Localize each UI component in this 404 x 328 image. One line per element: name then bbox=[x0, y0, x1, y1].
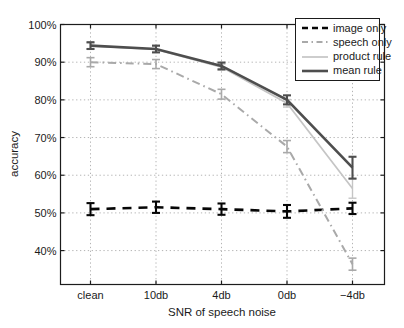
legend-label: mean rule bbox=[333, 65, 382, 76]
legend-item-mean-rule: mean rule bbox=[301, 64, 379, 78]
y-tick-label: 50% bbox=[17, 207, 57, 219]
legend-label: speech only bbox=[333, 37, 392, 48]
y-tick-label: 90% bbox=[17, 56, 57, 68]
x-tick-label: 4db bbox=[212, 289, 230, 301]
y-tick-label: 60% bbox=[17, 169, 57, 181]
x-tick-label: 0db bbox=[278, 289, 296, 301]
x-tick-label: −4db bbox=[340, 289, 365, 301]
legend-label: product rule bbox=[333, 51, 391, 62]
legend-line-sample-product-rule bbox=[301, 53, 329, 61]
legend: image only speech only product rule mean… bbox=[295, 18, 380, 81]
y-tick-label: 80% bbox=[17, 94, 57, 106]
legend-line-sample-image-only bbox=[301, 24, 329, 32]
x-axis-label: SNR of speech noise bbox=[168, 306, 276, 318]
y-tick-label: 70% bbox=[17, 132, 57, 144]
x-tick-label: clean bbox=[77, 289, 103, 301]
legend-label: image only bbox=[333, 23, 386, 34]
legend-item-image-only: image only bbox=[301, 21, 379, 35]
x-tick-label: 10db bbox=[144, 289, 168, 301]
legend-line-sample-speech-only bbox=[301, 38, 329, 46]
y-tick-label: 100% bbox=[17, 19, 57, 31]
y-tick-label: 40% bbox=[17, 245, 57, 257]
legend-line-sample-mean-rule bbox=[301, 67, 329, 75]
legend-item-speech-only: speech only bbox=[301, 35, 379, 49]
figure: 100%90%80%70%60%50%40%clean10db4db0db−4d… bbox=[0, 0, 404, 328]
legend-item-product-rule: product rule bbox=[301, 50, 379, 64]
y-axis-label: accuracy bbox=[8, 131, 20, 177]
